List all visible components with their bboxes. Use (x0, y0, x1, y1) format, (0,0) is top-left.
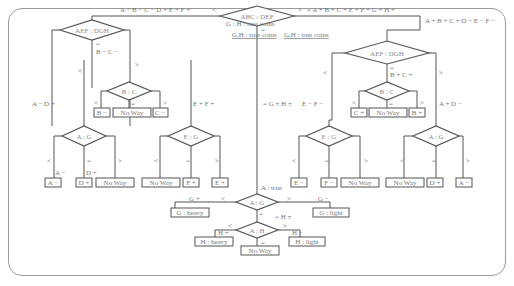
h-heavy-result: H : heavy (200, 238, 228, 246)
left-bc-result-b-minus: B − (97, 109, 107, 117)
left-lt-label: A − D + (32, 100, 55, 108)
left-bc-result-no-way: No Way (121, 109, 144, 117)
g-heavy-result: G : heavy (176, 209, 204, 217)
root-right-label2: A + B + C + D − E − F − (425, 17, 495, 25)
middle-ah-node: A : H (236, 222, 278, 238)
svg-text:<: < (400, 157, 404, 165)
a-true-label: A : true (261, 184, 282, 192)
note-gh-true-coins: G : H : true coins (226, 20, 275, 28)
right-eg-result-no-way: No Way (349, 179, 372, 187)
note-gh-true-coins-right: G,H : true coins (284, 31, 329, 39)
left-gt-label: E + F + (193, 100, 214, 108)
svg-text:A : H: A : H (249, 227, 264, 235)
svg-text:=: = (259, 210, 263, 218)
svg-text:AEF : DGH: AEF : DGH (370, 50, 404, 58)
svg-text:<: < (323, 69, 327, 77)
g-light-result: G : light (319, 209, 342, 217)
svg-text:E : G: E : G (184, 133, 199, 141)
svg-text:=: = (87, 157, 91, 165)
note-gh-true-coins-left: G,H : true coins (232, 31, 277, 39)
svg-text:>: > (466, 157, 470, 165)
svg-text:AEF : DGH: AEF : DGH (75, 27, 109, 35)
svg-text:B : C: B : C (122, 88, 137, 96)
left-ag-result-d-plus: D + (79, 179, 90, 187)
svg-text:>: > (287, 195, 291, 203)
root-lt-sign: < (212, 6, 216, 14)
svg-text:=: = (131, 100, 135, 108)
left-bc-result-c-minus: C − (155, 109, 165, 117)
right-eg-result-f-minus: F − (324, 179, 334, 187)
svg-text:<: < (154, 157, 158, 165)
left-eq-label: B − C − (96, 48, 119, 56)
left-gt-sign: > (135, 61, 139, 69)
right-bc-node: B : C (365, 82, 409, 100)
svg-text:<: < (94, 99, 98, 107)
right-eg-node: E : G (306, 126, 352, 146)
right-bc-result-c-plus: C + (354, 109, 364, 117)
left-lt-sign: < (78, 67, 82, 75)
left-ag-result-no-way: No Way (104, 179, 127, 187)
svg-text:<: < (352, 99, 356, 107)
h-light-result: H : light (295, 238, 318, 246)
svg-text:A + D −: A + D − (439, 100, 462, 108)
right-ag-result-a-minus: A − (459, 179, 469, 187)
svg-text:A : G: A : G (249, 199, 264, 207)
svg-text:E : G: E : G (322, 133, 337, 141)
right-eg-result-e-minus: E − (294, 179, 304, 187)
right-ag-result-d-plus: D + (430, 179, 441, 187)
svg-text:D +: D + (86, 169, 97, 177)
root-right-label: = A + B + C + E + F + G + H + (307, 6, 395, 14)
left-ag-node: A : G (62, 126, 106, 146)
svg-text:G −: G − (318, 195, 329, 203)
svg-text:>: > (420, 99, 424, 107)
svg-text:A −: A − (55, 169, 65, 177)
left-ag-result-a-minus: A − (48, 179, 58, 187)
left-eg-node: E : G (168, 126, 214, 146)
svg-text:<: < (292, 157, 296, 165)
svg-text:A : G: A : G (76, 133, 91, 141)
middle-ag-node: A : G (236, 194, 278, 210)
svg-text:>: > (283, 222, 287, 230)
root-left-label: A − B − C − D + E + F + (120, 6, 190, 14)
svg-text:>: > (163, 99, 167, 107)
right-aef-dgh-node: AEF : DGH (345, 41, 429, 64)
svg-text:=: = (186, 157, 190, 165)
svg-text:=: = (389, 100, 393, 108)
svg-text:>: > (439, 69, 443, 77)
svg-text:>: > (215, 157, 219, 165)
svg-text:B + C +: B + C + (390, 71, 413, 79)
svg-text:H +: H + (218, 229, 229, 237)
root-gt-sign: > (298, 6, 302, 14)
svg-text:E − F −: E − F − (302, 100, 323, 108)
svg-text:G +: G + (189, 195, 200, 203)
left-bc-node: B : C (107, 82, 151, 100)
svg-text:>: > (364, 157, 368, 165)
svg-text:H −: H − (292, 229, 303, 237)
decision-tree: ABC : DEF A − B − C − D + E + F + < > = … (0, 0, 514, 286)
right-bc-result-no-way: No Way (377, 109, 400, 117)
svg-text:<: < (47, 157, 51, 165)
svg-text:A : G: A : G (428, 133, 443, 141)
left-eg-result-no-way: No Way (150, 179, 173, 187)
svg-text:B : C: B : C (380, 88, 395, 96)
middle-label: = G ± H ± (263, 100, 292, 108)
svg-text:=: = (325, 157, 329, 165)
svg-text:=: = (432, 157, 436, 165)
svg-text:<: < (221, 195, 225, 203)
right-ag-result-no-way: No Way (394, 179, 417, 187)
left-eg-result-e-plus: E + (215, 179, 225, 187)
middle-no-way-result: No Way (249, 247, 272, 255)
svg-text:= H ±: = H ± (275, 213, 292, 221)
svg-text:>: > (118, 157, 122, 165)
left-eg-result-f-plus: F + (186, 179, 196, 187)
right-ag-node: A : G (413, 126, 459, 146)
right-bc-result-b-plus: B + (412, 109, 422, 117)
left-eq-sign: = (96, 40, 100, 48)
left-aef-dgh-node: AEF : DGH (60, 20, 124, 40)
